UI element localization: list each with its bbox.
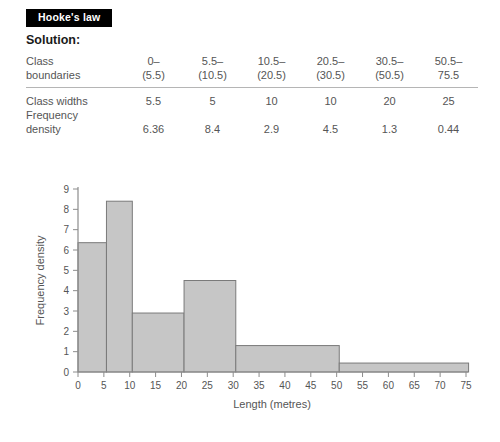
- x-tick-label: 55: [357, 380, 369, 391]
- cell-density-0: 6.36: [124, 122, 183, 136]
- x-tick-label: 70: [435, 380, 447, 391]
- x-tick-label: 30: [228, 380, 240, 391]
- cell-width-2: 10: [242, 94, 301, 108]
- cell-density-3: 4.5: [301, 122, 360, 136]
- x-tick-label: 35: [254, 380, 266, 391]
- histogram-bar-2: [132, 313, 184, 372]
- row-label-density: density: [26, 122, 124, 136]
- histogram-bar-3: [184, 281, 236, 373]
- cell-width-3: 10: [301, 94, 360, 108]
- y-tick-label: 6: [63, 245, 69, 256]
- cell-boundary-start-0: 0–: [124, 54, 183, 68]
- cell-boundary-start-2: 10.5–: [242, 54, 301, 68]
- x-tick-label: 75: [460, 380, 472, 391]
- chart-tick-labels: 0510152025303540455055606570750123456789: [63, 184, 472, 392]
- table-row-frequency-label: Frequency: [26, 108, 478, 122]
- x-tick-label: 15: [150, 380, 162, 391]
- table-row-boundaries-bottom: boundaries (5.5) (10.5) (20.5) (30.5) (5…: [26, 68, 478, 82]
- histogram-bar-0: [78, 243, 106, 372]
- cell-boundary-end-3: (30.5): [301, 68, 360, 82]
- cell-boundary-start-5: 50.5–: [419, 54, 478, 68]
- x-tick-label: 65: [409, 380, 421, 391]
- y-tick-label: 9: [63, 184, 69, 195]
- x-tick-label: 25: [202, 380, 214, 391]
- cell-boundary-start-3: 20.5–: [301, 54, 360, 68]
- histogram-bar-5: [339, 363, 468, 372]
- x-tick-label: 45: [305, 380, 317, 391]
- x-tick-label: 20: [176, 380, 188, 391]
- class-data-table: Class 0– 5.5– 10.5– 20.5– 30.5– 50.5– bo…: [26, 54, 478, 136]
- cell-boundary-end-1: (10.5): [183, 68, 242, 82]
- cell-boundary-start-1: 5.5–: [183, 54, 242, 68]
- table-row-class-widths: Class widths 5.5 5 10 10 20 25: [26, 94, 478, 108]
- row-label-boundaries: boundaries: [26, 68, 124, 82]
- row-label-frequency: Frequency: [26, 108, 124, 122]
- cell-boundary-end-5: 75.5: [419, 68, 478, 82]
- y-tick-label: 5: [63, 265, 69, 276]
- x-tick-label: 5: [101, 380, 107, 391]
- cell-boundary-end-0: (5.5): [124, 68, 183, 82]
- x-axis-title: Length (metres): [233, 398, 311, 410]
- solution-heading: Solution:: [26, 33, 80, 47]
- table-row-boundaries-top: Class 0– 5.5– 10.5– 20.5– 30.5– 50.5–: [26, 54, 478, 68]
- topic-banner: Hooke's law: [26, 9, 112, 27]
- chart-axes: [73, 187, 468, 377]
- row-label-class-widths: Class widths: [26, 94, 124, 108]
- histogram-bar-4: [236, 346, 339, 372]
- y-tick-label: 0: [63, 367, 69, 378]
- y-tick-label: 1: [63, 346, 69, 357]
- cell-width-0: 5.5: [124, 94, 183, 108]
- cell-boundary-end-2: (20.5): [242, 68, 301, 82]
- cell-boundary-end-4: (50.5): [360, 68, 419, 82]
- cell-density-4: 1.3: [360, 122, 419, 136]
- y-tick-label: 3: [63, 306, 69, 317]
- x-tick-label: 50: [331, 380, 343, 391]
- y-tick-label: 4: [63, 285, 69, 296]
- y-tick-label: 8: [63, 204, 69, 215]
- cell-boundary-start-4: 30.5–: [360, 54, 419, 68]
- row-label-class: Class: [26, 54, 124, 68]
- y-axis-title: Frequency density: [34, 235, 46, 325]
- cell-density-1: 8.4: [183, 122, 242, 136]
- x-tick-label: 60: [383, 380, 395, 391]
- cell-width-5: 25: [419, 94, 478, 108]
- x-tick-label: 0: [75, 380, 81, 391]
- cell-density-2: 2.9: [242, 122, 301, 136]
- x-tick-label: 10: [124, 380, 136, 391]
- table-row-frequency-density: density 6.36 8.4 2.9 4.5 1.3 0.44: [26, 122, 478, 136]
- y-tick-label: 7: [63, 224, 69, 235]
- x-tick-label: 40: [279, 380, 291, 391]
- histogram-bars: [78, 201, 469, 372]
- cell-density-5: 0.44: [419, 122, 478, 136]
- histogram-bar-1: [106, 201, 132, 372]
- cell-width-4: 20: [360, 94, 419, 108]
- cell-width-1: 5: [183, 94, 242, 108]
- y-tick-label: 2: [63, 326, 69, 337]
